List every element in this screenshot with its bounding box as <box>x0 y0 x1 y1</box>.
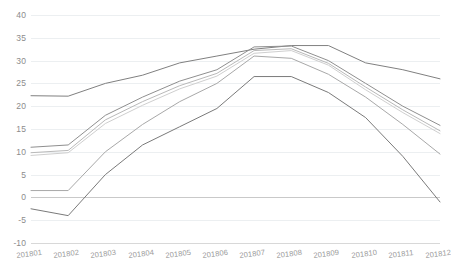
y-tick-label: 30 <box>0 57 26 66</box>
y-tick-label: 40 <box>0 11 26 20</box>
y-tick-label: -10 <box>0 239 26 248</box>
y-tick-label: 25 <box>0 79 26 88</box>
series-lines <box>31 46 440 216</box>
gridlines <box>31 16 440 244</box>
series-line-1 <box>31 46 440 97</box>
y-tick-label: 0 <box>0 193 26 202</box>
y-tick-label: 20 <box>0 102 26 111</box>
y-tick-label: 5 <box>0 171 26 180</box>
chart-plot-area <box>0 0 451 271</box>
y-tick-label: 15 <box>0 125 26 134</box>
series-line-5 <box>31 56 440 191</box>
series-line-4 <box>31 51 440 156</box>
line-chart: 4035302520151050-5-10 201801201802201803… <box>0 0 451 271</box>
y-tick-label: 10 <box>0 148 26 157</box>
y-tick-label: -5 <box>0 216 26 225</box>
y-tick-label: 35 <box>0 34 26 43</box>
